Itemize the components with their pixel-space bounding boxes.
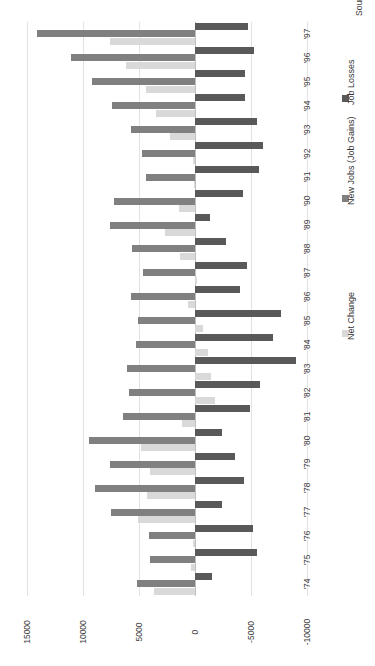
- bar-gain: [143, 269, 195, 276]
- bar-gain: [114, 198, 195, 205]
- bar-group: [0, 524, 375, 548]
- bar-gain: [150, 556, 195, 563]
- bar-loss: [195, 334, 273, 341]
- source-note: Source: IDA-Ireland: [352, 0, 366, 16]
- bar-gain: [123, 413, 195, 420]
- bar-net: [194, 181, 195, 188]
- bar-loss: [195, 525, 253, 532]
- bar-net: [182, 420, 195, 427]
- bar-net: [188, 301, 195, 308]
- bar-group: [0, 333, 375, 357]
- bar-group: [0, 309, 375, 333]
- bar-group: [0, 357, 375, 381]
- bar-group: [0, 22, 375, 46]
- bar-net: [141, 444, 195, 451]
- bar-net: [191, 564, 195, 571]
- bar-loss: [195, 429, 222, 436]
- bar-group: [0, 285, 375, 309]
- value-tick-label: -5000: [245, 612, 257, 652]
- bar-net: [170, 133, 195, 140]
- bar-net: [180, 253, 195, 260]
- bar-gain: [92, 78, 195, 85]
- bar-loss: [195, 166, 259, 173]
- bar-loss: [195, 453, 235, 460]
- bar-group: [0, 548, 375, 572]
- bar-gain: [149, 532, 195, 539]
- bar-gain: [138, 317, 195, 324]
- bar-group: [0, 142, 375, 166]
- bar-loss: [195, 501, 222, 508]
- bar-net: [195, 277, 197, 284]
- bar-group: [0, 429, 375, 453]
- bar-net: [126, 62, 195, 69]
- bar-group: [0, 118, 375, 142]
- bar-gain: [131, 293, 195, 300]
- bar-loss: [195, 142, 263, 149]
- bar-gain: [136, 341, 195, 348]
- bar-gain: [137, 580, 195, 587]
- bar-group: [0, 572, 375, 596]
- bar-net: [165, 229, 195, 236]
- chart-page: '97'96'95'94'93'92'91'90'89'88'87'86'85'…: [0, 0, 375, 666]
- bar-group: [0, 46, 375, 70]
- bar-gain: [110, 461, 195, 468]
- value-tick-label: 5000: [133, 612, 145, 652]
- legend-label: Net Change: [344, 190, 358, 340]
- bar-net: [193, 157, 195, 164]
- bar-gain: [146, 174, 195, 181]
- value-tick-label: 10000: [77, 612, 89, 652]
- bar-loss: [195, 94, 245, 101]
- bar-group: [0, 189, 375, 213]
- bar-gain: [89, 437, 195, 444]
- bar-net: [195, 325, 203, 332]
- bar-net: [150, 468, 195, 475]
- bar-gain: [37, 30, 195, 37]
- bar-group: [0, 213, 375, 237]
- bar-net: [195, 373, 211, 380]
- bar-group: [0, 237, 375, 261]
- chart-legend: Net ChangeNew Jobs (Job Gains)Job Losses: [336, 0, 362, 666]
- bar-gain: [132, 245, 195, 252]
- bar-group: [0, 476, 375, 500]
- bar-net: [179, 205, 195, 212]
- bar-group: [0, 500, 375, 524]
- bar-group: [0, 381, 375, 405]
- bar-net: [154, 588, 195, 595]
- bar-loss: [195, 238, 226, 245]
- bar-net: [138, 516, 195, 523]
- bar-loss: [195, 477, 244, 484]
- value-tick-label: -10000: [301, 612, 313, 652]
- bar-net: [146, 86, 195, 93]
- bar-net: [195, 349, 208, 356]
- bar-loss: [195, 549, 257, 556]
- bar-gain: [131, 126, 195, 133]
- bar-group: [0, 453, 375, 477]
- bar-loss: [195, 47, 254, 54]
- bar-loss: [195, 573, 212, 580]
- plot-area: '97'96'95'94'93'92'91'90'89'88'87'86'85'…: [0, 0, 375, 666]
- bar-group: [0, 94, 375, 118]
- year-tick-label: '74: [301, 567, 313, 601]
- bar-group: [0, 70, 375, 94]
- bar-gain: [112, 102, 195, 109]
- bar-net: [193, 540, 195, 547]
- bar-gain: [142, 150, 195, 157]
- bar-loss: [195, 405, 250, 412]
- value-tick-label: 0: [189, 612, 201, 652]
- bar-gain: [111, 509, 195, 516]
- bar-loss: [195, 118, 257, 125]
- bar-gain: [129, 389, 195, 396]
- bar-gain: [110, 222, 195, 229]
- bar-net: [147, 492, 195, 499]
- bar-loss: [195, 262, 247, 269]
- bar-gain: [95, 485, 195, 492]
- bar-loss: [195, 190, 243, 197]
- bar-net: [195, 397, 215, 404]
- bar-group: [0, 261, 375, 285]
- bar-loss: [195, 381, 260, 388]
- bar-loss: [195, 23, 248, 30]
- value-tick-label: 15000: [21, 612, 33, 652]
- bar-loss: [195, 310, 281, 317]
- bar-group: [0, 166, 375, 190]
- bar-net: [156, 110, 195, 117]
